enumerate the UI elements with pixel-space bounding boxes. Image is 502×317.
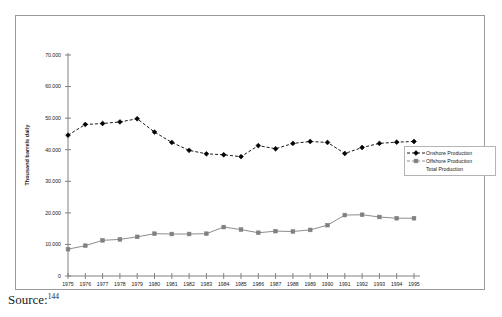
y-tick-label: 60.000	[31, 83, 61, 89]
caption-source-label: Source:	[8, 292, 48, 307]
y-tick-label: 40.000	[31, 147, 61, 153]
legend-item: Total Production	[407, 165, 493, 173]
y-tick-label: 0	[31, 273, 61, 279]
chart-series-offshore-production	[66, 213, 416, 251]
y-tick-label: 70.000	[31, 52, 61, 58]
y-axis-title: Thousand barrels daily	[24, 95, 30, 215]
y-tick-label: 20.000	[31, 210, 61, 216]
legend-item-label: Offshore Production	[425, 158, 472, 164]
legend-item: Offshore Production	[407, 157, 493, 165]
x-tick-label: 1995	[402, 281, 426, 287]
legend-marker-diamond-icon	[407, 149, 425, 157]
chart-series-onshore-production	[66, 116, 417, 159]
y-tick-label: 30.000	[31, 178, 61, 184]
legend-marker-square-icon	[407, 157, 425, 165]
y-tick-label: 10.000	[31, 241, 61, 247]
chart-legend: Onshore ProductionOffshore ProductionTot…	[404, 146, 496, 176]
figure-caption: Source:144	[8, 292, 59, 308]
y-tick-label: 50.000	[31, 115, 61, 121]
legend-item: Onshore Production	[407, 149, 493, 157]
caption-footnote-marker: 144	[48, 292, 59, 301]
legend-item-label: Onshore Production	[425, 150, 472, 156]
legend-item-label: Total Production	[425, 166, 463, 172]
